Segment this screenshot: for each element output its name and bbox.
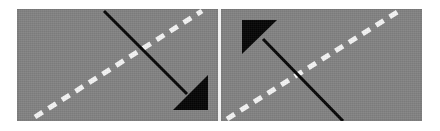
left-road-scene-panel[interactable] (17, 9, 218, 121)
figure-root (0, 0, 440, 131)
right-road-scene-panel[interactable] (221, 9, 422, 121)
right-panel-graphic (221, 9, 422, 121)
left-panel-graphic (17, 9, 218, 121)
panel-pair (17, 9, 422, 121)
